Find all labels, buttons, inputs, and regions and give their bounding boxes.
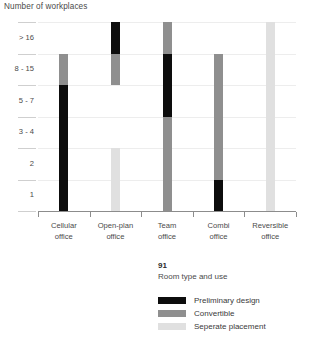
y-axis-tick (18, 180, 36, 181)
x-axis-label: Reversibleoffice (242, 221, 298, 242)
x-axis-label: Combioffice (191, 221, 247, 242)
figure-caption: 91 Room type and use (158, 260, 308, 282)
y-axis-title: Number of workplaces (4, 2, 87, 11)
x-axis-label-line2: office (87, 232, 143, 243)
bar-column (59, 22, 68, 211)
bar-column (163, 22, 172, 211)
legend-label: Convertible (194, 307, 234, 320)
y-axis-tick (18, 22, 36, 23)
caption-text: Room type and use (158, 271, 308, 282)
x-axis-label: Open-planoffice (87, 221, 143, 242)
y-axis-tick (18, 85, 36, 86)
bar-segment (163, 54, 172, 117)
x-axis-tick (38, 212, 39, 217)
x-axis-label: Teamoffice (139, 221, 195, 242)
legend-label: Seperate placement (194, 320, 266, 333)
x-axis-tick (296, 212, 297, 217)
y-axis-label: > 16 (0, 33, 34, 42)
y-axis-label: 5 - 7 (0, 96, 34, 105)
y-axis-tick (18, 211, 36, 212)
bar-segment (163, 117, 172, 212)
bar-segment (59, 54, 68, 86)
legend-swatch (158, 323, 186, 330)
bar-segment (214, 180, 223, 212)
y-axis-tick (18, 54, 36, 55)
x-axis-label-line1: Open-plan (87, 221, 143, 232)
y-axis-label: 1 (0, 190, 34, 199)
y-axis-label: 8 - 15 (0, 64, 34, 73)
bar-column (111, 22, 120, 211)
x-axis-tick (141, 212, 142, 217)
chart-figure: Number of workplaces > 168 - 155 - 73 - … (0, 0, 313, 342)
legend-swatch (158, 310, 186, 317)
y-axis-tick (18, 148, 36, 149)
x-axis-label-line2: office (139, 232, 195, 243)
x-axis-label-line2: office (191, 232, 247, 243)
x-axis-label-line1: Reversible (242, 221, 298, 232)
bar-segment (111, 54, 120, 86)
x-axis-label-line2: office (36, 232, 92, 243)
bar-segment (111, 148, 120, 211)
bar-column (214, 22, 223, 211)
x-axis-label-line2: office (242, 232, 298, 243)
x-axis-label-line1: Team (139, 221, 195, 232)
x-axis-tick (244, 212, 245, 217)
bar-segment (266, 22, 275, 211)
x-axis-label-line1: Cellular (36, 221, 92, 232)
y-axis-label: 3 - 4 (0, 127, 34, 136)
x-axis-label-line1: Combi (191, 221, 247, 232)
y-axis-tick (18, 117, 36, 118)
bar-column (266, 22, 275, 211)
x-axis-tick (193, 212, 194, 217)
legend-swatch (158, 297, 186, 304)
x-axis-label: Cellularoffice (36, 221, 92, 242)
x-axis-tick (90, 212, 91, 217)
legend-label: Preliminary design (194, 294, 260, 307)
bar-segment (111, 22, 120, 54)
x-axis-line (38, 211, 296, 212)
caption-number: 91 (158, 260, 308, 271)
bar-segment (163, 22, 172, 54)
bar-segment (214, 54, 223, 180)
y-axis-label: 2 (0, 159, 34, 168)
bar-segment (59, 85, 68, 211)
